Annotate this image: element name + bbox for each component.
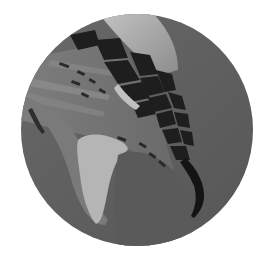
talon-image	[0, 0, 272, 258]
circle-crop	[0, 0, 272, 258]
talon-illustration	[0, 0, 272, 258]
